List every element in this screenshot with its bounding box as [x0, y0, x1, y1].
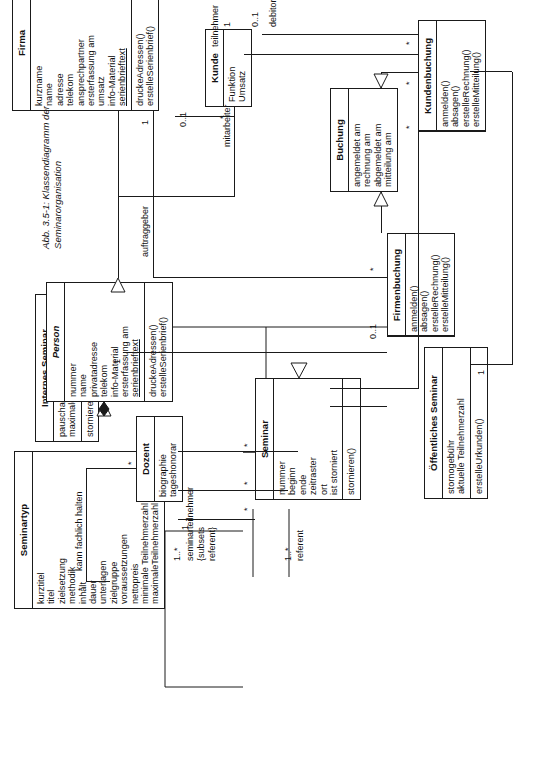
figure-caption-line2: Seminarorganisation	[52, 9, 64, 249]
mult-kundenbuchung-star-b: *	[404, 81, 414, 85]
figure-caption: Abb. 3.5-1: Klassendiagramm der Seminaro…	[40, 9, 64, 249]
label-seminarteilnehmer: seminarteilnehmer	[185, 487, 195, 561]
mult-kunde-zero-one: 0..1	[250, 12, 260, 27]
mult-seminar-star-c: *	[242, 443, 252, 447]
figure-caption-line1: Abb. 3.5-1: Klassendiagramm der	[40, 9, 52, 249]
label-referent: referent	[295, 530, 305, 561]
mult-kundenbuchung-star-c: *	[404, 41, 414, 45]
mult-dozent-one-star-a: 1..*	[172, 547, 182, 561]
mult-internes-one: 1	[112, 359, 122, 364]
label-kann-fachlich-halten: kann fachlich halten	[74, 491, 84, 571]
mult-kundenbuchung-star-a: *	[404, 125, 414, 129]
label-debitor: debitor	[268, 0, 278, 27]
mult-firma-one: 1	[140, 120, 150, 125]
generalization-arrow-buchung-left	[374, 192, 388, 206]
mult-seminartyp-star: *	[76, 587, 86, 591]
mult-firmenbuchung-star: *	[368, 267, 378, 271]
mult-kunde-star: *	[218, 115, 228, 119]
label-mitarbeiter: mitarbeiter	[222, 104, 232, 147]
diagram-canvas: Seminartyp kurztitel titel zielsetzung m…	[0, 0, 539, 757]
rotated-diagram-root: Seminartyp kurztitel titel zielsetzung m…	[0, 0, 539, 757]
mult-seminar-star-b: *	[242, 481, 252, 485]
mult-firmenbuchung-zero-one: 0..1	[368, 324, 378, 339]
mult-dozent-star: *	[126, 461, 136, 465]
mult-dozent-one-star-b: 1..*	[283, 547, 293, 561]
generalization-arrow-buchung-right	[374, 74, 388, 88]
label-subsets: {subsets	[196, 527, 206, 561]
label-auftraggeber: auftraggeber	[140, 206, 150, 257]
mult-firma-zero-one: 0..1	[178, 112, 188, 127]
mult-seminar-star-a: *	[242, 507, 252, 511]
label-teilnehmer: teilnehmer	[210, 5, 220, 47]
arrowhead-layer	[0, 0, 539, 757]
generalization-arrow-person-firma	[111, 278, 125, 292]
generalization-arrow-seminar	[291, 363, 307, 378]
label-subsets-referent: referent}	[207, 527, 217, 561]
mult-seminartyp-one: 1	[180, 525, 190, 530]
mult-kunde-one: 1	[222, 22, 232, 27]
mult-oeffentliches-one: 1	[476, 370, 486, 375]
